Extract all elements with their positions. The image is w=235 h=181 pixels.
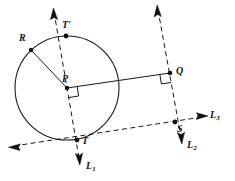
- label-l2: L2: [187, 140, 197, 152]
- geometry-figure: R T' P Q S T L1 L2 L3: [0, 0, 235, 181]
- figure-canvas: [0, 0, 235, 181]
- right-angle-marker-at-q: [160, 75, 171, 85]
- label-p: P: [62, 74, 68, 84]
- line-l1-arrowhead-top: [50, 8, 57, 20]
- label-l3: L3: [210, 110, 220, 122]
- label-q: Q: [176, 66, 183, 76]
- label-l1: L1: [86, 161, 96, 173]
- point-t-prime-dot: [64, 34, 69, 39]
- label-t: T: [82, 136, 88, 146]
- label-l3-subscript: 3: [216, 114, 220, 122]
- label-l2-subscript: 2: [193, 144, 197, 152]
- point-r-dot: [29, 48, 33, 52]
- line-l3-arrowhead-right: [196, 113, 208, 120]
- line-l1-arrowhead-bottom: [75, 153, 82, 165]
- line-l3-arrowhead-left: [9, 144, 21, 151]
- line-l2-arrowhead-top: [154, 5, 161, 17]
- label-r: R: [19, 33, 26, 43]
- label-s: S: [177, 124, 183, 134]
- label-l1-subscript: 1: [92, 165, 96, 173]
- right-angle-marker-at-p: [69, 87, 79, 98]
- label-t-prime: T': [62, 20, 71, 30]
- point-t-dot: [75, 138, 80, 143]
- point-p-dot: [65, 86, 70, 91]
- point-q-dot: [168, 71, 173, 76]
